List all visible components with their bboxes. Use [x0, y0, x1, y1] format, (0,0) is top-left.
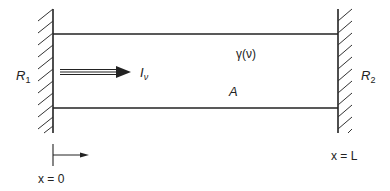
- left-mirror: [38, 9, 53, 133]
- right-mirror-label: R2: [361, 68, 375, 85]
- cross-section-area-label: A: [228, 84, 238, 99]
- origin-label: x = 0: [38, 172, 65, 186]
- gain-coefficient-label: γ(ν): [236, 47, 256, 61]
- beam-intensity-label: Iν: [140, 65, 149, 82]
- origin-marker: [53, 144, 89, 166]
- cavity-diagram: R1 R2 Iν γ(ν) A x = 0 x = L: [0, 0, 390, 191]
- left-mirror-label: R1: [16, 68, 30, 85]
- beam-arrow-icon: [60, 66, 131, 78]
- right-mirror: [338, 9, 352, 133]
- end-label: x = L: [331, 149, 358, 163]
